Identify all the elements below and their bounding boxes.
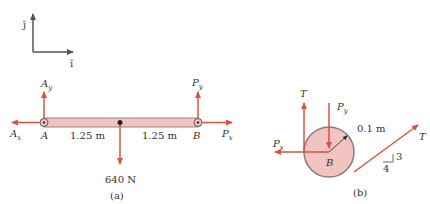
slope-run: 4 (383, 163, 389, 174)
slope-rise: 3 (396, 151, 402, 162)
i-label: î (70, 58, 74, 69)
label-A: A (40, 130, 48, 141)
j-label: ĵ (22, 19, 26, 30)
label-Py: Py (191, 77, 204, 91)
dist-left: 1.25 m (70, 130, 105, 141)
load-label: 640 N (105, 174, 136, 185)
dist-right: 1.25 m (142, 130, 177, 141)
label-T-left: T (300, 88, 308, 99)
label-T-right: T (419, 131, 427, 142)
figure-a-beam: Ay Ax Py Px A B 1.25 m 1.25 m 640 N (a) (9, 77, 233, 201)
label-B: B (192, 130, 200, 141)
center-of-mass (118, 120, 123, 125)
label-B-center: B (325, 157, 333, 168)
label-Py-b: Py (336, 101, 349, 115)
figure-b-pulley: T Py Px B 0.1 m T 3 4 (b) (272, 88, 427, 198)
caption-a: (a) (110, 190, 124, 201)
slope-triangle (383, 154, 393, 162)
label-Px: Px (221, 128, 233, 142)
caption-b: (b) (353, 187, 367, 198)
coordinate-axes: ĵ î (22, 14, 74, 69)
label-radius: 0.1 m (357, 123, 386, 134)
label-Ax: Ax (9, 128, 21, 142)
label-Px-b: Px (272, 138, 284, 152)
label-Ay: Ay (40, 78, 53, 92)
free-body-diagrams: ĵ î Ay Ax Py Px A B 1.25 m 1.25 m 640 N … (0, 0, 430, 204)
